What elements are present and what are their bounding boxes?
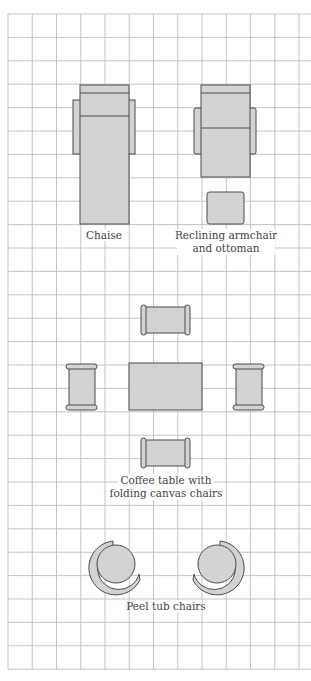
label-peel-tub-line-1: Peel tub chairs (126, 600, 205, 612)
canvas-chair-rail (233, 364, 264, 369)
chaise-body (80, 85, 129, 224)
canvas-chair-bottom (141, 438, 190, 468)
label-chaise-line-1: Chaise (86, 229, 122, 241)
chaise (73, 85, 135, 224)
coffee-table (129, 363, 202, 410)
label-recliner: Reclining armchair and ottoman (175, 229, 278, 255)
label-chaise: Chaise (84, 229, 124, 241)
ottoman (207, 192, 244, 224)
label-coffee-table: Coffee table with folding canvas chairs (110, 474, 223, 500)
canvas-chair-seat (145, 440, 186, 466)
label-coffee-line-2: folding canvas chairs (110, 487, 223, 499)
label-recliner-line-1: Reclining armchair (175, 229, 278, 241)
recliner-body (201, 85, 250, 177)
label-coffee-line-1: Coffee table with (120, 474, 211, 486)
canvas-chair-rail (66, 405, 97, 410)
canvas-chair-seat (69, 368, 95, 406)
canvas-chair-seat (236, 368, 262, 406)
peel-tub-chair-left (89, 541, 140, 595)
tub-seat (198, 545, 236, 583)
reclining-armchair (194, 85, 256, 177)
tub-seat (97, 545, 135, 583)
canvas-chair-rail (66, 364, 97, 369)
canvas-chair-seat (145, 307, 186, 333)
canvas-chair-rail (185, 305, 190, 335)
floor-plan-diagram: Chaise Reclining armchair and ottoman Co… (0, 0, 311, 681)
peel-tub-chair-right (193, 541, 244, 595)
canvas-chair-left (66, 364, 97, 410)
grid (8, 14, 311, 669)
canvas-chair-top (141, 305, 190, 335)
label-peel-tub: Peel tub chairs (126, 600, 205, 612)
canvas-chair-right (233, 364, 264, 410)
canvas-chair-rail (141, 305, 146, 335)
canvas-chair-rail (141, 438, 146, 468)
label-recliner-line-2: and ottoman (192, 242, 259, 254)
canvas-chair-rail (185, 438, 190, 468)
canvas-chair-rail (233, 405, 264, 410)
